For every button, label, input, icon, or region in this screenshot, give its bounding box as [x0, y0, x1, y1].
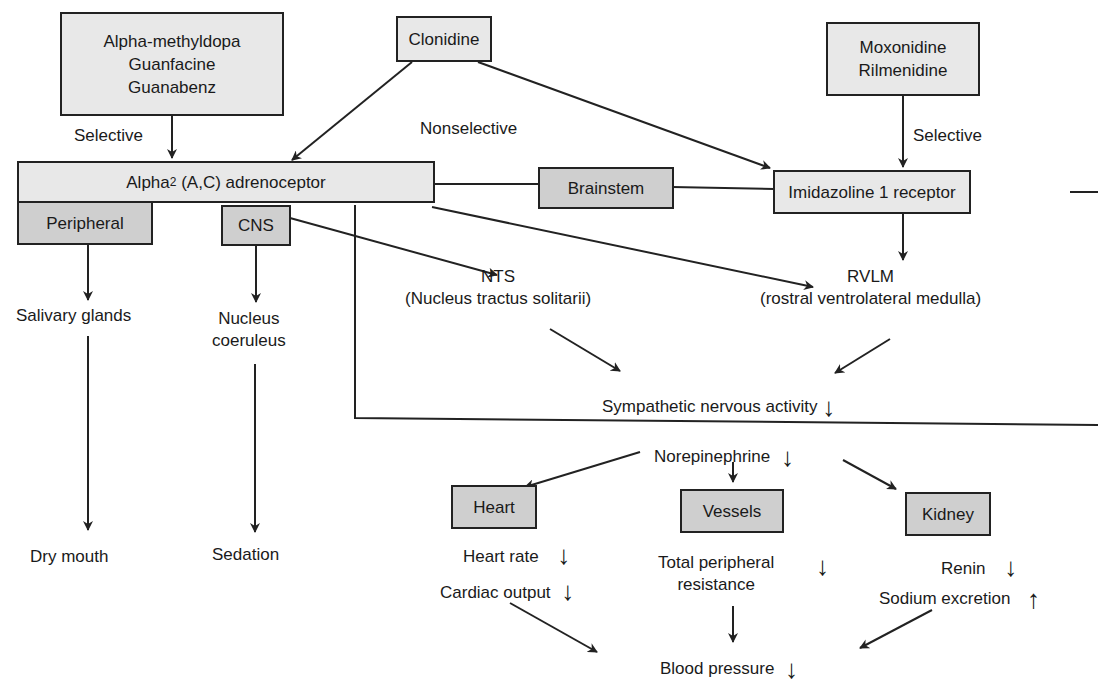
- cns-box: CNS: [221, 205, 291, 246]
- tpr-label: Total peripheral resistance: [658, 552, 774, 596]
- cardiac-output-label: Cardiac output ↓: [440, 576, 574, 604]
- blood-pressure-label: Blood pressure ↓: [660, 652, 798, 680]
- arrow-up-icon: ↑: [1027, 584, 1040, 614]
- heart-box: Heart: [451, 485, 537, 529]
- arrow-down-icon: ↓: [1004, 552, 1017, 582]
- imidazoline-agonists-box: Moxonidine Rilmenidine: [826, 22, 980, 96]
- salivary-glands-label: Salivary glands: [16, 305, 131, 327]
- drug-rilmenidine: Rilmenidine: [859, 59, 948, 82]
- vessels-box: Vessels: [680, 489, 784, 533]
- selective-label-left: Selective: [74, 125, 143, 147]
- arrow-down-icon: ↓: [785, 654, 798, 680]
- rvlm-label: RVLM (rostral ventrolateral medulla): [760, 266, 981, 310]
- nonselective-label: Nonselective: [420, 118, 517, 140]
- alpha2-adrenoceptor-box: Alpha2 (A,C) adrenoceptor: [17, 161, 435, 203]
- drug-guanfacine: Guanfacine: [129, 53, 216, 76]
- brainstem-box: Brainstem: [538, 167, 674, 209]
- imidazoline-receptor-box: Imidazoline 1 receptor: [773, 170, 971, 214]
- peripheral-box: Peripheral: [17, 201, 153, 245]
- drug-alpha-methyldopa: Alpha-methyldopa: [103, 30, 240, 53]
- arrow-down-icon: ↓: [822, 392, 835, 422]
- norepinephrine-label: Norepinephrine ↓: [654, 440, 794, 468]
- heart-rate-label: Heart rate ↓: [463, 540, 570, 568]
- dry-mouth-label: Dry mouth: [30, 546, 108, 568]
- nts-label: NTS (Nucleus tractus solitarii): [405, 266, 591, 310]
- nucleus-coeruleus-label: Nucleus coeruleus: [212, 308, 286, 352]
- sodium-excretion-label: Sodium excretion ↑: [879, 582, 1040, 610]
- sympathetic-activity-label: Sympathetic nervous activity ↓: [602, 390, 835, 418]
- arrow-down-icon: ↓: [816, 553, 829, 579]
- selective-label-right: Selective: [913, 125, 982, 147]
- renin-label: Renin ↓: [941, 552, 1017, 580]
- alpha-agonists-box: Alpha-methyldopa Guanfacine Guanabenz: [60, 12, 284, 116]
- sedation-label: Sedation: [212, 544, 279, 566]
- drug-moxonidine: Moxonidine: [860, 36, 947, 59]
- arrow-down-icon: ↓: [781, 442, 794, 472]
- clonidine-box: Clonidine: [396, 16, 492, 62]
- arrow-down-icon: ↓: [561, 576, 574, 606]
- kidney-box: Kidney: [905, 492, 991, 536]
- drug-guanabenz: Guanabenz: [128, 76, 216, 99]
- arrow-down-icon: ↓: [557, 540, 570, 570]
